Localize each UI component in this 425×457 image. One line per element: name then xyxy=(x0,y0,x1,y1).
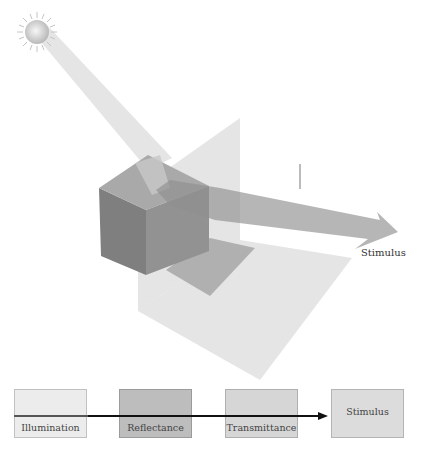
arrowhead-icon xyxy=(318,412,328,420)
stage-label: Transmittance xyxy=(226,422,297,433)
stage-label: Reflectance xyxy=(120,422,191,433)
divider-mark xyxy=(299,164,301,189)
flow-arrow xyxy=(14,412,334,420)
illumination-beam xyxy=(36,26,172,170)
stage-stimulus: Stimulus xyxy=(331,389,404,438)
stage-label: Illumination xyxy=(15,422,86,433)
stage-label: Stimulus xyxy=(332,406,403,417)
scene-illustration xyxy=(0,0,425,385)
stimulus-label: Stimulus xyxy=(361,247,406,258)
sun-icon xyxy=(17,12,57,52)
